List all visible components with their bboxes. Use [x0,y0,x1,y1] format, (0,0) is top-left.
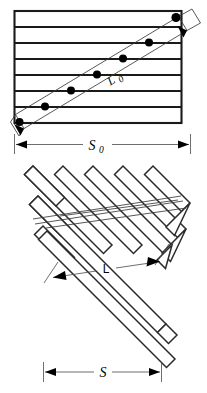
s0-arrowhead-right [178,141,189,149]
panel-top-lamellar-stack: L 0 [11,9,201,136]
stack-layer-lines [15,27,182,107]
marker-dot [119,55,127,63]
s-arrowhead-left [45,368,56,376]
technical-figure: L 0 S 0 [0,0,207,393]
offset-mark-top-right [192,9,201,23]
s0-label-subscript: 0 [99,145,104,155]
offset-mark-top-right-link2 [187,23,201,31]
marker-dot [171,13,180,22]
s-dimension-line: S [44,362,162,382]
l0-label-group: L 0 [104,68,126,90]
s0-label: S [89,138,96,153]
marker-dot [41,103,49,111]
l-arrowhead-left [53,271,67,280]
marker-dot [145,39,153,47]
s0-dimension-line: S 0 [15,134,191,155]
marker-dot [93,71,101,79]
marker-dot [16,118,24,126]
s-arrowhead-right [149,368,160,376]
figure-root: L 0 S 0 [0,0,207,393]
l-label: L [103,262,110,276]
marker-dot [67,87,75,95]
l-extension-tick-left [44,262,58,283]
panel-bottom-folded-ribbon: L [25,166,191,368]
s0-arrowhead-left [16,141,27,149]
diagonal-band-upper-edge [16,17,179,115]
s-label: S [100,365,107,380]
ribbon-strip-long [39,231,176,368]
